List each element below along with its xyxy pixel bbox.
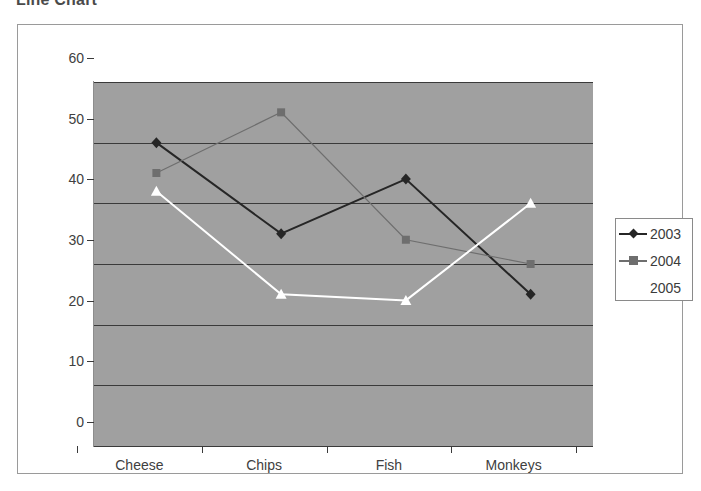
x-axis-tick-label: Cheese bbox=[115, 457, 163, 473]
y-axis-labels: 0102030405060 bbox=[18, 25, 84, 491]
legend-square-icon bbox=[616, 251, 650, 271]
page-title: Line Chart bbox=[16, 0, 97, 9]
x-axis-tick-label: Fish bbox=[376, 457, 402, 473]
y-axis-tick bbox=[87, 422, 94, 423]
x-axis-tick bbox=[451, 446, 452, 453]
gridline bbox=[94, 143, 593, 144]
plot-area bbox=[94, 82, 593, 446]
chart-frame: 0102030405060 CheeseChipsFishMonkeys 200… bbox=[17, 24, 683, 474]
legend-triangle-icon bbox=[616, 278, 650, 298]
legend-label: 2003 bbox=[650, 226, 681, 242]
legend-marker-swatch bbox=[629, 228, 639, 238]
legend-label: 2005 bbox=[650, 280, 681, 296]
legend-diamond-icon bbox=[616, 224, 650, 244]
x-axis-tick-label: Monkeys bbox=[486, 457, 542, 473]
x-axis-tick bbox=[77, 446, 78, 453]
gridline bbox=[94, 325, 593, 326]
x-axis-tick-label: Chips bbox=[246, 457, 282, 473]
gridline bbox=[94, 203, 593, 204]
y-axis-tick-label: 10 bbox=[24, 353, 84, 369]
legend-item-2005[interactable]: 2005 bbox=[616, 274, 692, 301]
legend-item-2003[interactable]: 2003 bbox=[616, 220, 692, 247]
y-axis-tick bbox=[87, 119, 94, 120]
x-axis-tick bbox=[202, 446, 203, 453]
y-axis-tick-label: 50 bbox=[24, 111, 84, 127]
y-axis-tick-label: 60 bbox=[24, 50, 84, 66]
y-axis-tick bbox=[87, 361, 94, 362]
gridline bbox=[94, 264, 593, 265]
y-axis-line bbox=[93, 81, 94, 447]
gridline bbox=[94, 385, 593, 386]
legend-marker-swatch bbox=[629, 256, 638, 265]
y-axis-tick-label: 30 bbox=[24, 232, 84, 248]
y-axis-tick bbox=[87, 240, 94, 241]
y-axis-tick bbox=[87, 301, 94, 302]
legend-item-2004[interactable]: 2004 bbox=[616, 247, 692, 274]
y-axis-tick-label: 40 bbox=[24, 171, 84, 187]
legend-marker-swatch bbox=[629, 283, 639, 292]
y-axis-tick bbox=[87, 58, 94, 59]
y-axis-tick bbox=[87, 179, 94, 180]
x-axis-tick bbox=[327, 446, 328, 453]
y-axis-tick-label: 0 bbox=[24, 414, 84, 430]
y-axis-tick-label: 20 bbox=[24, 293, 84, 309]
legend: 200320042005 bbox=[615, 218, 693, 301]
x-axis-tick bbox=[576, 446, 577, 453]
x-axis-line bbox=[94, 446, 593, 447]
gridline bbox=[94, 82, 593, 83]
legend-label: 2004 bbox=[650, 253, 681, 269]
